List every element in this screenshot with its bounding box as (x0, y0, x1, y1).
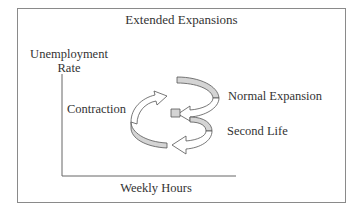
phase-label-normal-expansion: Normal Expansion (228, 89, 322, 104)
phase-label-second-life: Second Life (227, 124, 288, 139)
phase-label-contraction: Contraction (67, 102, 126, 117)
contraction-band-shaded (131, 122, 167, 148)
x-axis-label: Weekly Hours (100, 181, 212, 196)
contraction-arrow (131, 91, 167, 124)
second-life-arrow (172, 131, 212, 154)
second-life-band-shaded (190, 117, 212, 131)
normal-expansion-band-shaded (177, 77, 219, 98)
normal-expansion-tail (171, 109, 180, 117)
